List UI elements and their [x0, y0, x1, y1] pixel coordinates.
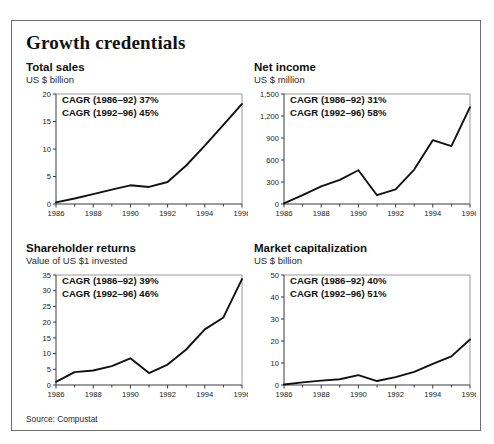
svg-text:1988: 1988: [85, 209, 102, 218]
svg-text:1992: 1992: [387, 390, 404, 399]
chart-panel-market-capitalization: Market capitalization US $ billion 01020…: [254, 242, 476, 422]
svg-text:1,200: 1,200: [260, 112, 279, 121]
chart-panel-total-sales: Total sales US $ billion 051015201986198…: [26, 61, 248, 241]
svg-text:30: 30: [43, 286, 51, 295]
svg-text:1988: 1988: [313, 209, 330, 218]
svg-text:1990: 1990: [122, 209, 139, 218]
svg-text:15: 15: [43, 334, 51, 343]
exhibit-panel: Growth credentials Total sales US $ bill…: [11, 20, 481, 431]
svg-text:1996: 1996: [462, 209, 476, 218]
svg-text:1992: 1992: [159, 209, 176, 218]
svg-text:1996: 1996: [234, 209, 248, 218]
svg-text:1996: 1996: [462, 390, 476, 399]
plot-total-sales: 05101520198619881990199219941996 CAGR (1…: [26, 88, 248, 236]
svg-text:1994: 1994: [196, 390, 213, 399]
chart-subtitle-net-income: US $ million: [254, 74, 476, 86]
chart-subtitle-shareholder-returns: Value of US $1 invested: [26, 255, 248, 267]
svg-text:1996: 1996: [234, 390, 248, 399]
plot-svg-total-sales: 05101520198619881990199219941996: [26, 88, 248, 220]
svg-text:0: 0: [275, 381, 279, 390]
plot-market-capitalization: 01020304050198619881990199219941996 CAGR…: [254, 269, 476, 417]
svg-text:1990: 1990: [122, 390, 139, 399]
svg-text:10: 10: [271, 359, 279, 368]
svg-text:10: 10: [43, 145, 51, 154]
page-title: Growth credentials: [26, 32, 480, 54]
svg-text:1994: 1994: [424, 209, 441, 218]
svg-text:1986: 1986: [276, 209, 293, 218]
svg-text:1986: 1986: [48, 390, 65, 399]
plot-net-income: 03006009001,2001,50019861988199019921994…: [254, 88, 476, 236]
svg-text:40: 40: [271, 293, 279, 302]
svg-text:1992: 1992: [159, 390, 176, 399]
svg-text:30: 30: [271, 315, 279, 324]
chart-subtitle-total-sales: US $ billion: [26, 74, 248, 86]
svg-text:1988: 1988: [313, 390, 330, 399]
chart-title-total-sales: Total sales: [26, 61, 248, 74]
plot-shareholder-returns: 05101520253035198619881990199219941996 C…: [26, 269, 248, 417]
svg-text:1988: 1988: [85, 390, 102, 399]
svg-text:5: 5: [47, 172, 51, 181]
plot-svg-net-income: 03006009001,2001,50019861988199019921994…: [254, 88, 476, 220]
svg-text:5: 5: [47, 365, 51, 374]
svg-text:600: 600: [266, 156, 279, 165]
svg-text:20: 20: [43, 318, 51, 327]
chart-grid: Total sales US $ billion 051015201986198…: [12, 61, 480, 423]
chart-panel-shareholder-returns: Shareholder returns Value of US $1 inves…: [26, 242, 248, 422]
svg-text:1,500: 1,500: [260, 90, 279, 99]
svg-text:0: 0: [47, 200, 51, 209]
svg-text:1986: 1986: [276, 390, 293, 399]
svg-text:1992: 1992: [387, 209, 404, 218]
svg-text:1990: 1990: [350, 209, 367, 218]
chart-panel-net-income: Net income US $ million 03006009001,2001…: [254, 61, 476, 241]
svg-text:1994: 1994: [196, 209, 213, 218]
chart-title-shareholder-returns: Shareholder returns: [26, 242, 248, 255]
svg-text:1986: 1986: [48, 209, 65, 218]
svg-text:900: 900: [266, 134, 279, 143]
svg-text:1990: 1990: [350, 390, 367, 399]
plot-svg-shareholder-returns: 05101520253035198619881990199219941996: [26, 269, 248, 401]
chart-title-net-income: Net income: [254, 61, 476, 74]
svg-text:35: 35: [43, 271, 51, 280]
svg-text:0: 0: [275, 200, 279, 209]
svg-text:10: 10: [43, 349, 51, 358]
svg-text:1994: 1994: [424, 390, 441, 399]
plot-svg-market-capitalization: 01020304050198619881990199219941996: [254, 269, 476, 401]
svg-text:300: 300: [266, 178, 279, 187]
svg-text:0: 0: [47, 381, 51, 390]
svg-text:25: 25: [43, 302, 51, 311]
svg-text:15: 15: [43, 117, 51, 126]
chart-subtitle-market-capitalization: US $ billion: [254, 255, 476, 267]
svg-text:20: 20: [271, 337, 279, 346]
svg-text:20: 20: [43, 90, 51, 99]
svg-text:50: 50: [271, 271, 279, 280]
chart-title-market-capitalization: Market capitalization: [254, 242, 476, 255]
source-note: Source: Compustat: [26, 414, 98, 424]
